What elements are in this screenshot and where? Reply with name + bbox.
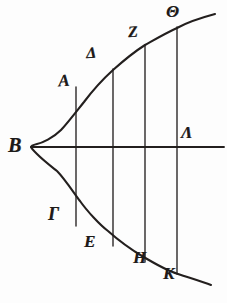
parabola-figure: A B Γ Δ E Z H Θ K Λ: [0, 0, 227, 303]
parabola-curve: [31, 14, 215, 285]
label-epsilon: E: [84, 233, 95, 250]
label-alpha: A: [57, 72, 70, 90]
label-lambda: Λ: [181, 124, 192, 141]
label-beta: B: [8, 135, 21, 155]
figure-canvas: [0, 0, 227, 303]
label-theta: Θ: [166, 3, 179, 20]
label-kappa: K: [163, 265, 174, 282]
label-delta: Δ: [86, 45, 97, 62]
label-zeta: Z: [127, 24, 138, 41]
label-gamma: Γ: [48, 205, 59, 223]
label-eta: H: [133, 249, 146, 266]
